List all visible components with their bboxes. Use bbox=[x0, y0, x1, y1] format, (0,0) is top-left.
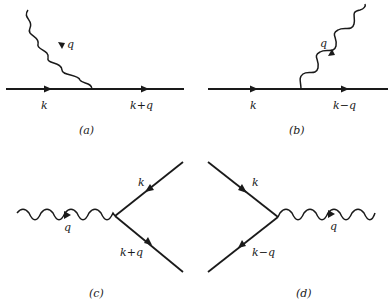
label-photon-a: q bbox=[67, 38, 74, 51]
arrow-icon-kq-a bbox=[141, 86, 149, 93]
label-photon-c: q bbox=[64, 221, 71, 234]
caption-c: (c) bbox=[89, 287, 104, 300]
caption-b: (b) bbox=[289, 124, 305, 137]
arrow-icon-q-c bbox=[64, 211, 71, 219]
arrow-icon-kq-b bbox=[341, 86, 349, 93]
label-fermion-out-b: k−q bbox=[333, 99, 356, 112]
label-fermion-out-a: k+q bbox=[130, 99, 153, 112]
label-fermion-out-c: k+q bbox=[120, 246, 143, 259]
arrow-icon-k-a bbox=[44, 86, 52, 93]
panel-a: q k k+q (a) bbox=[6, 10, 184, 137]
label-fermion-in-c: k bbox=[138, 176, 145, 189]
arrow-icon-q-d bbox=[328, 210, 335, 218]
photon-wave-a bbox=[26, 10, 92, 89]
label-fermion-in-a: k bbox=[41, 99, 48, 112]
arrow-icon-k-d bbox=[238, 184, 247, 193]
panel-c: q k k+q (c) bbox=[17, 162, 183, 300]
feynman-diagrams-figure: q k k+q (a) q k k−q (b) q k k+q (c) bbox=[0, 0, 392, 308]
label-fermion-in-d: k bbox=[252, 176, 259, 189]
panel-d: q k k−q (d) bbox=[208, 162, 375, 300]
arrow-icon-k-b bbox=[250, 86, 258, 93]
label-photon-b: q bbox=[320, 37, 327, 50]
caption-d: (d) bbox=[296, 287, 312, 300]
label-fermion-out-d: k−q bbox=[252, 246, 275, 259]
panel-b: q k k−q (b) bbox=[208, 4, 388, 137]
label-fermion-in-b: k bbox=[250, 99, 257, 112]
arrow-icon-q-a bbox=[58, 42, 65, 49]
caption-a: (a) bbox=[79, 124, 94, 137]
label-photon-d: q bbox=[330, 220, 337, 233]
photon-wave-b bbox=[300, 4, 365, 89]
photon-wave-d bbox=[278, 209, 375, 220]
